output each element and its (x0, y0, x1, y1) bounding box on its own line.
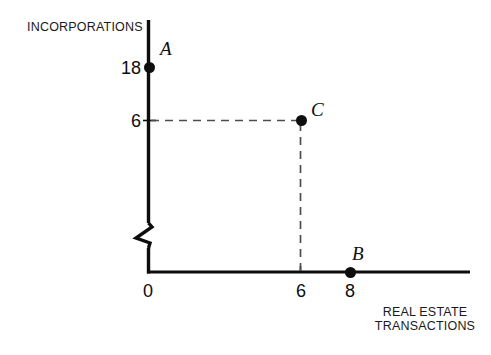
y-axis-title: INCORPORATIONS (27, 20, 143, 34)
axis-break-zigzag (136, 223, 152, 248)
x-axis-title-line-2: TRANSACTIONS (375, 319, 475, 333)
data-point-c (296, 115, 307, 126)
data-point-c-label: C (311, 99, 324, 121)
x-axis-title: REAL ESTATE TRANSACTIONS (361, 305, 489, 333)
chart-canvas: INCORPORATIONS REAL ESTATE TRANSACTIONS … (0, 0, 491, 355)
y-tick-label-6: 6 (107, 111, 141, 132)
data-point-a (144, 62, 155, 73)
data-point-a-label: A (160, 38, 172, 60)
x-tick-label-0: 0 (133, 281, 163, 302)
x-tick-label-6: 6 (286, 281, 316, 302)
chart-axes-and-guides (0, 0, 491, 355)
x-tick-label-8: 8 (335, 281, 365, 302)
data-point-b (345, 267, 356, 278)
x-axis-title-line-1: REAL ESTATE (383, 305, 468, 319)
data-point-b-label: B (352, 243, 364, 265)
y-tick-label-18: 18 (107, 58, 141, 79)
